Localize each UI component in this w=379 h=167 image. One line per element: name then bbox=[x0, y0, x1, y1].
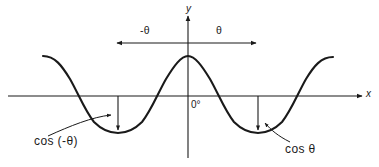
negative-theta-label: -θ bbox=[140, 25, 150, 36]
origin-label: 0° bbox=[191, 100, 201, 110]
cos-negative-theta-label: cos (-θ) bbox=[34, 135, 78, 147]
positive-theta-label: θ bbox=[216, 25, 222, 36]
y-axis-label: y bbox=[186, 4, 191, 14]
cos-theta-label: cos θ bbox=[285, 143, 316, 155]
x-axis-label: x bbox=[366, 89, 371, 99]
cos-neg-theta-leader bbox=[48, 115, 111, 136]
cosine-symmetry-figure: y x -θ θ 0° cos (-θ) cos θ bbox=[0, 0, 379, 167]
